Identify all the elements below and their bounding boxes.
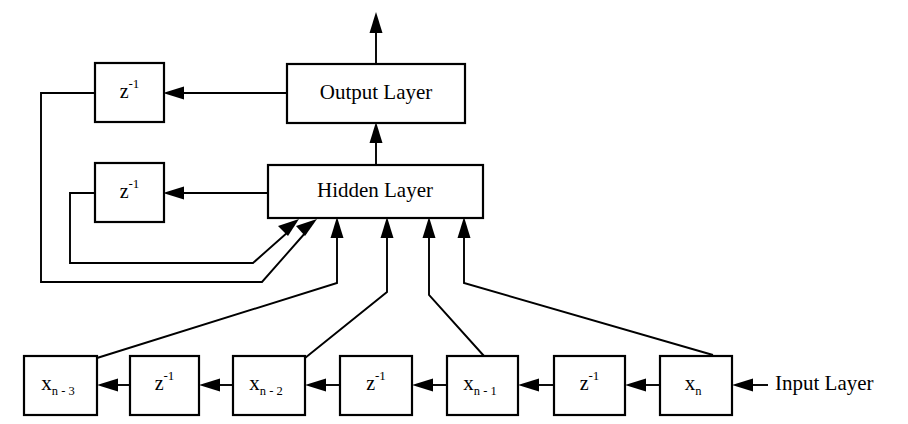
hidden-to-delay-arrowhead <box>163 187 184 200</box>
xn1-to-tap2-arrowhead <box>412 379 433 392</box>
input-layer-label: Input Layer <box>775 371 874 395</box>
input-xn3-to-hidden-path <box>97 233 337 358</box>
input-xn2-to-hidden-arrowhead <box>381 217 394 238</box>
network-output-arrowhead <box>370 12 383 33</box>
output-feedback-arrowhead <box>296 219 317 236</box>
input-xn1-to-hidden-path <box>429 233 484 356</box>
output-feedback-loop-path <box>41 93 306 282</box>
block-delay-output[interactable] <box>95 63 164 122</box>
block-output-layer-label: Output Layer <box>320 80 433 104</box>
tap1-to-xn3-arrowhead <box>97 379 118 392</box>
block-delay-hidden[interactable] <box>95 163 164 222</box>
output-to-delay-arrowhead <box>163 87 184 100</box>
text-label-layer: Input Layer <box>775 371 874 395</box>
diagram-canvas: z-1 Output Layer z-1 Hidden Layer xn - 3… <box>0 0 908 424</box>
input-xn3-to-hidden-arrowhead <box>331 217 344 238</box>
block-layer: z-1 Output Layer z-1 Hidden Layer xn - 3… <box>24 63 732 415</box>
input-xn2-to-hidden-path <box>305 233 387 358</box>
xn2-to-tap1-arrowhead <box>199 379 220 392</box>
xn-to-tap3-arrowhead <box>625 379 646 392</box>
hidden-feedback-arrowhead <box>278 219 299 236</box>
block-delay-tap1[interactable] <box>130 356 199 415</box>
input-xn-to-hidden-arrowhead <box>458 217 471 238</box>
input-xn1-to-hidden-arrowhead <box>423 217 436 238</box>
hidden-to-output-arrowhead <box>370 122 383 143</box>
block-delay-tap3[interactable] <box>554 356 625 415</box>
tap2-to-xn2-arrowhead <box>305 379 326 392</box>
block-hidden-layer-label: Hidden Layer <box>317 178 433 202</box>
diagram-svg: z-1 Output Layer z-1 Hidden Layer xn - 3… <box>0 0 908 424</box>
inputlabel-to-xn-arrowhead <box>732 379 753 392</box>
tap3-to-xn1-arrowhead <box>518 379 539 392</box>
input-xn-to-hidden-path <box>464 233 713 355</box>
block-delay-tap2[interactable] <box>340 356 412 415</box>
